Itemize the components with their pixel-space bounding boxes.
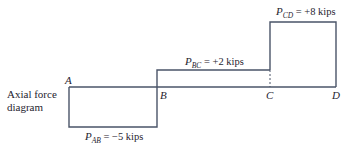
diagram-title-line2: diagram xyxy=(7,101,43,113)
point-label-b: B xyxy=(160,89,167,101)
axial-force-diagram: Axial force diagram A B C D PAB = −5 kip… xyxy=(0,0,357,146)
point-label-c: C xyxy=(266,89,274,101)
segment-bc-block xyxy=(157,70,270,87)
point-label-d: D xyxy=(331,89,340,101)
force-label-cd: PCD = +8 kips xyxy=(275,5,336,20)
segment-ab-block xyxy=(69,87,157,127)
force-label-ab: PAB = −5 kips xyxy=(84,130,143,145)
segment-cd-block xyxy=(270,22,336,87)
diagram-title-line1: Axial force xyxy=(7,88,57,100)
point-label-a: A xyxy=(64,74,72,86)
force-label-bc: PBC = +2 kips xyxy=(184,55,244,70)
